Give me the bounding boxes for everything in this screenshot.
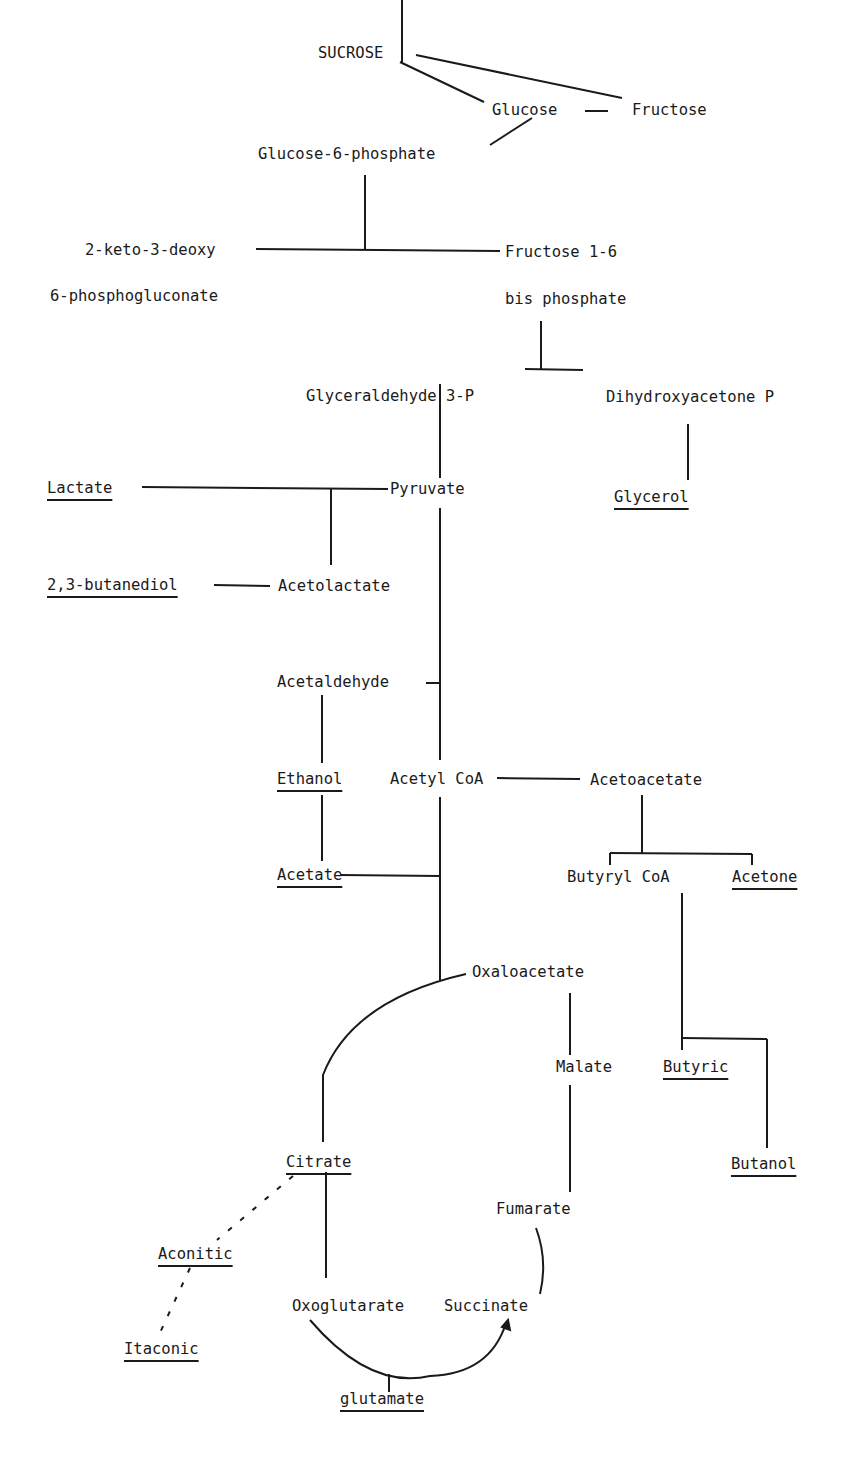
fermentation-pathway-diagram: SUCROSE Glucose Fructose Glucose-6-phosp… (0, 0, 857, 1460)
node-acetate: Acetate (277, 866, 342, 884)
edge-citrate-aconitic (217, 1176, 293, 1240)
node-23-butanediol: 2,3-butanediol (47, 576, 178, 594)
edge-oxoglutarate-succinate (310, 1320, 506, 1378)
pathway-connectors (0, 0, 857, 1460)
node-citrate: Citrate (286, 1153, 351, 1171)
edge-glucose-g6p (490, 118, 532, 145)
edge-oxaloacetate-citrate (323, 974, 466, 1142)
edge-pyruvate-lactate (142, 487, 388, 489)
edge-acetylcoa-acetoacetate (497, 778, 580, 779)
edge-sucrose-fructose (416, 55, 622, 98)
node-malate: Malate (556, 1058, 612, 1076)
edge-acetoacetate-bracket (610, 853, 752, 854)
node-glyceraldehyde-3p: Glyceraldehyde 3-P (306, 387, 474, 405)
node-glycerol: Glycerol (614, 488, 689, 506)
node-pyruvate: Pyruvate (390, 480, 465, 498)
node-oxaloacetate: Oxaloacetate (472, 963, 584, 981)
node-butanol: Butanol (731, 1155, 796, 1173)
node-acetyl-coa: Acetyl CoA (390, 770, 483, 788)
node-aconitic: Aconitic (158, 1245, 233, 1263)
edge-g3p-dhap (525, 369, 583, 370)
node-fumarate: Fumarate (496, 1200, 571, 1218)
edge-kdpg-fbp (256, 249, 500, 251)
node-kdpg-line1: 2-keto-3-deoxy (85, 241, 216, 259)
node-butyric: Butyric (663, 1058, 728, 1076)
node-acetone: Acetone (732, 868, 797, 886)
node-fbp-line1: Fructose 1-6 (505, 243, 617, 261)
edge-sucrose-glucose (400, 62, 484, 102)
node-glutamate: glutamate (340, 1390, 424, 1408)
node-itaconic: Itaconic (124, 1340, 199, 1358)
edge-aconitic-itaconic (158, 1268, 190, 1337)
node-fructose: Fructose (632, 101, 707, 119)
node-ethanol: Ethanol (277, 770, 342, 788)
edge-acetylcoa-acetate (341, 875, 440, 876)
node-succinate: Succinate (444, 1297, 528, 1315)
edge-butyrylcoa-branch (682, 1038, 767, 1039)
node-lactate: Lactate (47, 479, 112, 497)
arrowhead-succinate (502, 1320, 510, 1330)
node-fbp-line2: bis phosphate (505, 290, 626, 308)
node-glucose-6-phosphate: Glucose-6-phosphate (258, 145, 435, 163)
node-butyryl-coa: Butyryl CoA (567, 868, 670, 886)
node-kdpg-line2: 6-phosphogluconate (50, 287, 218, 305)
node-acetoacetate: Acetoacetate (590, 771, 702, 789)
node-acetolactate: Acetolactate (278, 577, 390, 595)
edge-acetolactate-butanediol (214, 585, 270, 586)
node-oxoglutarate: Oxoglutarate (292, 1297, 404, 1315)
node-dihydroxyacetone-p: Dihydroxyacetone P (606, 388, 774, 406)
edge-fumarate-succinate (536, 1228, 543, 1294)
node-sucrose: SUCROSE (318, 44, 383, 62)
node-acetaldehyde: Acetaldehyde (277, 673, 389, 691)
node-glucose: Glucose (492, 101, 557, 119)
